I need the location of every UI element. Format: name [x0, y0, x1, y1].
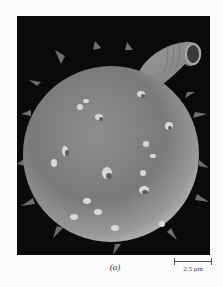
bump: [83, 198, 91, 204]
bump: [94, 209, 102, 215]
neck-opening: [186, 44, 200, 64]
scale-bar-right-tick: [211, 258, 212, 265]
bump: [150, 154, 156, 158]
bump: [51, 159, 57, 167]
scale-bar-label: 2.5 μm: [174, 265, 212, 273]
figure-caption: (a): [100, 262, 130, 272]
scale-bar-line: [174, 261, 212, 262]
micrograph-svg: [17, 16, 210, 255]
bump: [111, 225, 119, 231]
bump: [143, 141, 149, 147]
bump: [77, 104, 83, 110]
bump: [140, 170, 146, 176]
specimen-sphere: [23, 66, 199, 242]
scale-bar: 2.5 μm: [174, 257, 212, 279]
bump: [159, 221, 165, 227]
bump: [70, 214, 78, 220]
bump: [83, 99, 89, 103]
micrograph-photo: [17, 16, 210, 255]
